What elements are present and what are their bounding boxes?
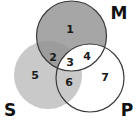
region-label-4: 4 bbox=[83, 50, 91, 63]
region-label-2: 2 bbox=[49, 51, 57, 64]
region-label-1: 1 bbox=[66, 23, 74, 36]
region-label-6: 6 bbox=[65, 76, 73, 89]
region-label-7: 7 bbox=[101, 71, 109, 84]
venn-diagram: 1 2 3 4 5 6 7 M S P bbox=[0, 0, 137, 123]
set-label-m: M bbox=[111, 3, 128, 23]
region-label-5: 5 bbox=[31, 69, 39, 82]
region-label-3: 3 bbox=[66, 56, 74, 69]
set-label-p: P bbox=[121, 100, 133, 120]
set-label-s: S bbox=[4, 100, 16, 120]
